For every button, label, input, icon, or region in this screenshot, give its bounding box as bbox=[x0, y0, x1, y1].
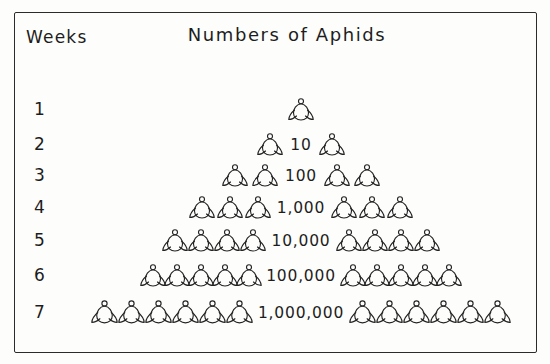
pictogram-row: 41,000 bbox=[0, 190, 550, 224]
week-number-label: 7 bbox=[34, 302, 60, 322]
aphid-icon bbox=[361, 228, 389, 253]
row-content: 1,000,000 bbox=[62, 299, 540, 325]
aphid-icon bbox=[198, 299, 227, 325]
aphid-icon bbox=[348, 299, 377, 325]
aphid-icon bbox=[330, 195, 358, 220]
aphid-icon bbox=[483, 299, 512, 325]
pictogram-row: 6100,000 bbox=[0, 258, 550, 292]
aphid-icon bbox=[402, 299, 431, 325]
aphid-icon bbox=[239, 228, 267, 253]
row-content: 1,000 bbox=[62, 195, 540, 220]
week-number-label: 2 bbox=[34, 134, 60, 154]
pictogram-row: 210 bbox=[0, 127, 550, 161]
aphid-count-label: 10,000 bbox=[266, 232, 335, 250]
row-content: 100,000 bbox=[62, 263, 540, 288]
aphid-icon bbox=[235, 263, 263, 288]
week-number-label: 5 bbox=[34, 230, 60, 250]
aphid-group-right bbox=[330, 195, 414, 220]
aphid-icon bbox=[225, 299, 254, 325]
aphid-group-left bbox=[188, 195, 272, 220]
aphid-icon bbox=[353, 163, 381, 188]
aphid-group-left bbox=[91, 299, 253, 325]
week-number-label: 6 bbox=[34, 265, 60, 285]
aphid-count-label: 10 bbox=[285, 136, 316, 154]
aphid-icon bbox=[387, 228, 415, 253]
row-content: 100 bbox=[62, 163, 540, 188]
row-content: 10,000 bbox=[62, 228, 540, 253]
aphid-icon bbox=[335, 228, 363, 253]
aphid-icon bbox=[171, 299, 200, 325]
aphid-icon bbox=[117, 299, 146, 325]
aphid-icon bbox=[256, 132, 284, 157]
pictogram-row: 71,000,000 bbox=[0, 295, 550, 329]
aphid-icon bbox=[413, 228, 441, 253]
aphid-icon bbox=[221, 163, 249, 188]
aphid-icon bbox=[287, 97, 315, 122]
aphid-count-label: 100,000 bbox=[261, 267, 341, 285]
aphid-icon bbox=[318, 132, 346, 157]
aphid-icon bbox=[375, 299, 404, 325]
aphid-group-right bbox=[341, 263, 461, 288]
aphid-group-center bbox=[286, 97, 316, 122]
aphid-count-label: 1,000 bbox=[272, 199, 330, 217]
pictogram-row: 510,000 bbox=[0, 223, 550, 257]
pictogram-row: 3100 bbox=[0, 158, 550, 192]
aphid-group-right bbox=[336, 228, 440, 253]
aphid-population-pictogram: Weeks Numbers of Aphids 1210310041,00051… bbox=[0, 0, 550, 364]
aphid-group-left bbox=[255, 132, 285, 157]
aphid-icon bbox=[144, 299, 173, 325]
aphid-group-left bbox=[141, 263, 261, 288]
pictogram-row: 1 bbox=[0, 92, 550, 126]
aphid-icon bbox=[216, 195, 244, 220]
diagram-content: Weeks Numbers of Aphids 1210310041,00051… bbox=[0, 0, 550, 364]
week-number-label: 4 bbox=[34, 197, 60, 217]
week-number-label: 3 bbox=[34, 165, 60, 185]
aphid-group-left bbox=[162, 228, 266, 253]
aphid-icon bbox=[213, 228, 241, 253]
aphid-icon bbox=[251, 163, 279, 188]
aphid-icon bbox=[161, 228, 189, 253]
row-content bbox=[62, 97, 540, 122]
aphid-group-right bbox=[317, 132, 347, 157]
chart-title: Numbers of Aphids bbox=[0, 24, 550, 45]
row-content: 10 bbox=[62, 132, 540, 157]
aphid-icon bbox=[188, 195, 216, 220]
aphid-group-right bbox=[349, 299, 511, 325]
aphid-icon bbox=[386, 195, 414, 220]
aphid-icon bbox=[429, 299, 458, 325]
aphid-icon bbox=[90, 299, 119, 325]
aphid-icon bbox=[435, 263, 463, 288]
aphid-icon bbox=[456, 299, 485, 325]
week-number-label: 1 bbox=[34, 99, 60, 119]
aphid-count-label: 100 bbox=[280, 167, 322, 185]
aphid-group-right bbox=[322, 163, 382, 188]
aphid-icon bbox=[244, 195, 272, 220]
aphid-icon bbox=[187, 228, 215, 253]
aphid-group-left bbox=[220, 163, 280, 188]
aphid-count-label: 1,000,000 bbox=[253, 304, 349, 322]
aphid-icon bbox=[358, 195, 386, 220]
aphid-icon bbox=[323, 163, 351, 188]
